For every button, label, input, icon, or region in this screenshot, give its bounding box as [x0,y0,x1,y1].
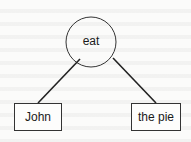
child-node-the-pie: the pie [131,103,181,131]
child-node-john: John [14,103,62,131]
child-node-label: John [25,110,51,124]
root-node-label: eat [66,34,116,48]
edge-eat-john [38,59,80,103]
edge-eat-the-pie [113,58,156,103]
child-node-label: the pie [138,110,174,124]
